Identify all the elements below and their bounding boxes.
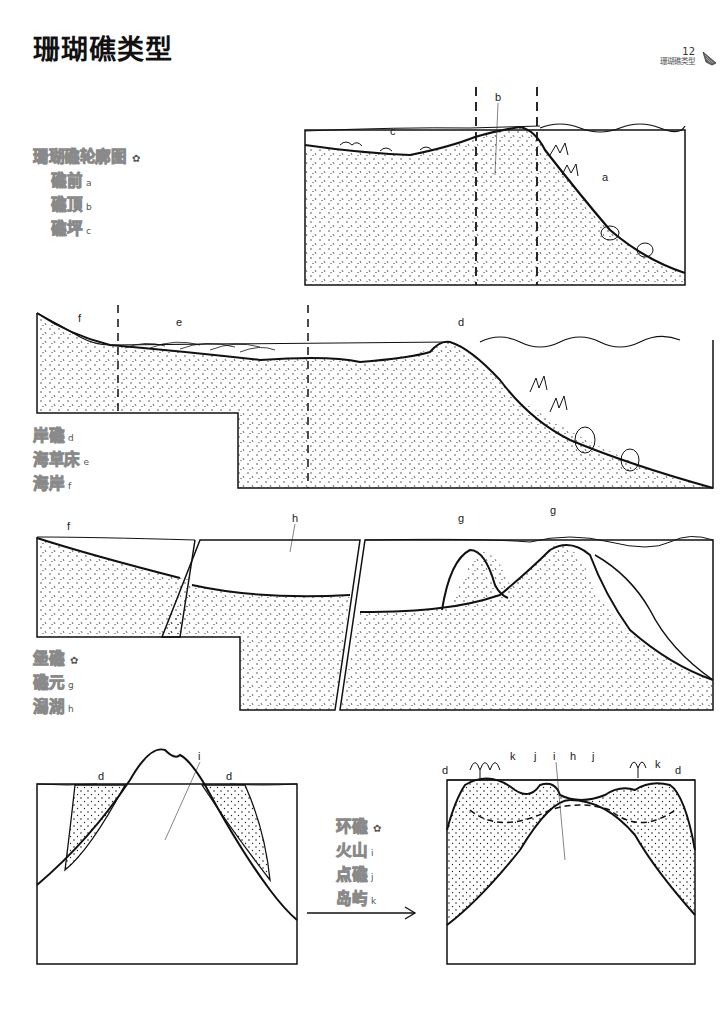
- legend-heading: 环礁: [336, 818, 367, 836]
- label-j-right: j: [591, 750, 594, 762]
- barrier-reef-diagram: h f g g: [30, 500, 720, 715]
- label-k-right: k: [655, 758, 661, 770]
- legend-atoll: 环礁✿ 火山i 点礁j 岛屿k: [336, 816, 381, 912]
- label-c: c: [390, 125, 396, 137]
- legend-letter: c: [86, 226, 91, 236]
- label-i: i: [553, 750, 555, 762]
- page-number-block: 12 珊瑚礁类型: [660, 46, 695, 67]
- label-i: i: [198, 750, 200, 762]
- arrow-icon: [305, 905, 420, 921]
- label-d: d: [458, 316, 464, 328]
- label-d-right: d: [675, 764, 681, 776]
- fringing-reef-diagram: f e d: [30, 300, 720, 495]
- label-d-left: d: [98, 770, 104, 782]
- label-b: b: [495, 91, 501, 103]
- legend-heading: 珊瑚礁轮廓图: [33, 148, 126, 166]
- palm-tree-icons: [470, 762, 646, 780]
- legend-letter: a: [86, 178, 92, 188]
- page-number: 12: [660, 46, 695, 57]
- reef-profile-diagram: b c a: [300, 85, 720, 290]
- legend-reef-profile: 珊瑚礁轮廓图✿ 礁前a 礁顶b 礁坪c: [33, 146, 140, 242]
- legend-label: 点礁: [336, 866, 367, 884]
- legend-label: 礁前: [51, 172, 82, 190]
- page-title: 珊瑚礁类型: [33, 28, 173, 67]
- atoll-diagram: d k j i h j k d: [440, 740, 710, 970]
- label-e: e: [176, 316, 182, 328]
- label-k-left: k: [510, 750, 516, 762]
- label-f: f: [78, 312, 82, 324]
- label-g-2: g: [550, 504, 556, 516]
- label-h: h: [292, 512, 298, 524]
- legend-label: 礁顶: [51, 196, 82, 214]
- legend-letter: b: [86, 202, 92, 212]
- flower-icon: ✿: [373, 823, 381, 834]
- flower-icon: ✿: [132, 153, 140, 164]
- label-d-left: d: [442, 764, 448, 776]
- legend-label: 火山: [336, 842, 367, 860]
- label-f: f: [67, 520, 71, 532]
- running-head: 珊瑚礁类型: [660, 57, 695, 67]
- legend-letter: j: [371, 872, 374, 882]
- label-h: h: [570, 750, 576, 762]
- shell-icon: [700, 48, 720, 68]
- label-j-left: j: [533, 750, 536, 762]
- label-a: a: [602, 171, 609, 183]
- legend-label: 礁坪: [51, 220, 82, 238]
- label-g-1: g: [458, 512, 464, 524]
- volcano-fringing-diagram: d i d: [30, 740, 300, 970]
- legend-letter: i: [371, 848, 374, 858]
- label-d-right: d: [226, 770, 232, 782]
